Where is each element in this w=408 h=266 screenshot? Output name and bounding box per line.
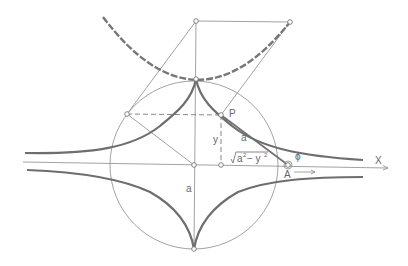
top-point [194, 19, 199, 24]
tractrix-lower-left [27, 170, 194, 249]
top-right-point [288, 20, 293, 25]
sqrt-minus: − y [247, 153, 261, 164]
sqrt-expression: a 2 − y 2 [231, 152, 268, 164]
left-circle-point [125, 112, 130, 117]
label-a: A [284, 169, 291, 180]
label-a-radius: a [186, 183, 192, 194]
x-axis [23, 162, 388, 168]
label-x: X [375, 155, 382, 166]
label-phi: ϕ [295, 151, 301, 162]
point-p [219, 113, 224, 118]
vertical-axis [194, 21, 196, 249]
tractrix-lower-right [194, 177, 363, 249]
tractrix-upper-left [25, 79, 196, 153]
point-a [286, 163, 291, 168]
catenary-curve [103, 17, 290, 80]
cusp-bottom-point [192, 247, 197, 252]
center-point [192, 163, 197, 168]
cusp-top-point [194, 77, 199, 82]
sqrt-exp-2: 2 [264, 152, 268, 158]
label-p: P [229, 108, 236, 119]
label-a-tangent: a [241, 132, 247, 143]
top-line [196, 21, 290, 22]
foot-point [219, 163, 224, 168]
tractrix-diagram: P A X y a a ϕ a 2 − y 2 [0, 0, 408, 266]
label-y: y [213, 134, 218, 145]
